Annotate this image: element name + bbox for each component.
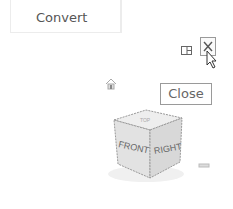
viewcube-menu-icon[interactable]: [198, 162, 210, 170]
tile-windows-icon: [181, 46, 192, 55]
tile-windows-button[interactable]: [181, 40, 192, 49]
close-tooltip: Close: [160, 83, 212, 105]
viewcube-top-label[interactable]: TOP: [140, 117, 151, 123]
home-icon[interactable]: [105, 78, 117, 90]
mouse-cursor-icon: [206, 50, 218, 70]
viewcube[interactable]: FRONT RIGHT TOP: [104, 104, 194, 184]
convert-button[interactable]: Convert: [36, 10, 87, 25]
ribbon-panel-frame-right: [120, 0, 233, 32]
